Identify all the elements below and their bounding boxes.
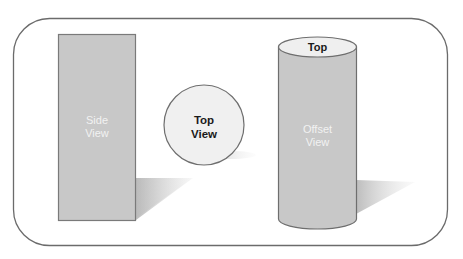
top-view-label-line1: Top (194, 114, 214, 126)
offset-view-top-label: Top (308, 41, 328, 53)
top-view-label-line2: View (191, 128, 217, 140)
offset-view-label-line2: View (306, 136, 330, 148)
side-view-label-line2: View (85, 127, 109, 139)
offset-view-label-line1: Offset (303, 123, 332, 135)
diagram-canvas: Side View Top View Top Offset View (0, 0, 463, 259)
side-view-label-line1: Side (86, 114, 108, 126)
